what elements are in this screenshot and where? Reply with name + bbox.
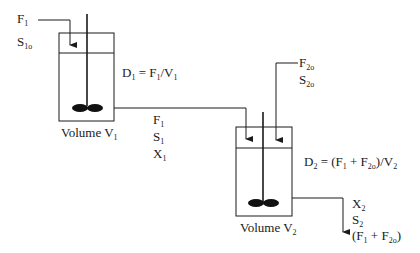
transfer-pipe: [114, 108, 246, 139]
tank-2-dilution-equation: D2 = (F1 + F2o)/V2: [304, 155, 397, 174]
tank-1-impeller-left: [72, 104, 88, 112]
tank-1-inlet-substrate-label: S1o: [17, 35, 32, 54]
tank-2-outlet-pipe: [292, 198, 343, 232]
tank-1-impeller-right: [87, 104, 103, 112]
tank-1-dilution-equation: D1 = F1/V1: [122, 66, 177, 85]
tank-2-volume-label: Volume V2: [240, 221, 297, 240]
tank-2-outlet-flow-label: (F1 + F2o): [352, 229, 401, 248]
tank-2-feed-pipe: [276, 63, 298, 140]
tank-1-outlet-biomass-label: X1: [153, 147, 166, 166]
tank-2-impeller-left: [248, 199, 264, 207]
tank-1-inlet-flow-label: F1: [17, 12, 28, 31]
tank-2-impeller-right: [263, 199, 279, 207]
tank-1-volume-label: Volume V1: [61, 126, 118, 145]
tank-2-inlet-substrate-label: S2o: [299, 73, 314, 92]
